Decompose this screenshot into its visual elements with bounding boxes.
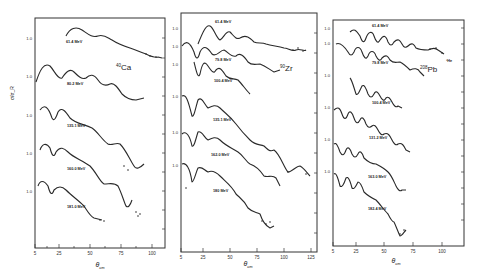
panel-frame bbox=[35, 18, 165, 248]
energy-label: 61.4 MeV bbox=[215, 20, 232, 24]
energy-label: 181.0 MeV bbox=[67, 205, 86, 209]
y-ref-label: 1.0 bbox=[26, 151, 32, 156]
energy-label: 61.4 MeV bbox=[372, 24, 389, 28]
energy-label: 160.0 MeV bbox=[67, 167, 86, 171]
x-tick-label: 100 bbox=[148, 251, 156, 256]
energy-label: 180 MeV bbox=[213, 189, 229, 193]
panel-pb208: 5 25 50 75 100 θcm 1.0 1.0 1.0 1.0 1.0 1… bbox=[324, 20, 464, 266]
x-tick-label: 5 bbox=[34, 251, 37, 256]
x-axis-label: θcm bbox=[243, 260, 253, 269]
y-ref-label: 1.0 bbox=[26, 36, 32, 41]
curve-61-4-mev bbox=[198, 26, 306, 51]
x-tick-label: 5 bbox=[180, 255, 183, 260]
curve-181-0-mev bbox=[38, 182, 102, 221]
curve-162-0-mev bbox=[182, 132, 280, 186]
figure-canvas: σ/σ_R 5 25 50 75 100 θcm 1.0 1.0 1.0 1.0… bbox=[0, 0, 488, 280]
curve-160-0-mev bbox=[40, 144, 132, 206]
x-tick-label: 25 bbox=[353, 249, 359, 254]
curve-131-2-mev bbox=[334, 108, 410, 152]
y-ref-label: 1.0 bbox=[324, 169, 330, 174]
curve-100-4-mev bbox=[194, 62, 250, 94]
energy-label: 80.2 MeV bbox=[67, 82, 84, 86]
energy-label: 61.4 MeV bbox=[66, 40, 83, 44]
y-ref-label: 1.0 bbox=[324, 137, 330, 142]
y-ref-label: 1.0 bbox=[324, 41, 330, 46]
y-ref-label: 1.0 bbox=[26, 189, 32, 194]
y-ref-label: 1.0 bbox=[172, 44, 178, 49]
curve-182-4-mev bbox=[334, 174, 406, 236]
x-tick-label: 25 bbox=[56, 251, 62, 256]
x-tick-label: 125 bbox=[307, 255, 315, 260]
x-tick-label: 50 bbox=[87, 251, 93, 256]
y-ref-label: 1.0 bbox=[172, 94, 178, 99]
x-tick-label: 75 bbox=[254, 255, 260, 260]
x-tick-label: 100 bbox=[438, 249, 446, 254]
x-axis-ticks: 5 25 50 75 100 bbox=[332, 242, 447, 254]
y-ref-label: 1.0 bbox=[26, 74, 32, 79]
x-axis-ticks: 5 25 50 75 100 125 bbox=[180, 248, 316, 260]
energy-label: 100.4 MeV bbox=[372, 101, 391, 105]
curve-79-8-mev bbox=[336, 43, 424, 76]
energy-label: 162.0 MeV bbox=[211, 153, 230, 157]
energy-label: 135.1 MeV bbox=[213, 118, 232, 122]
y-ref-label: 1.0 bbox=[172, 62, 178, 67]
nucleus-label: 40Ca bbox=[116, 63, 132, 72]
energy-label: 131.2 MeV bbox=[369, 136, 388, 140]
curve-180-mev bbox=[182, 164, 274, 228]
y-ref-label: 1.0 bbox=[172, 26, 178, 31]
curve-163-0-mev bbox=[334, 143, 406, 190]
energy-label: 100.4 MeV bbox=[214, 79, 233, 83]
energy-label: 135.1 MeV bbox=[67, 124, 86, 128]
curve-135-1-mev bbox=[40, 107, 144, 168]
x-axis-label: θcm bbox=[95, 261, 105, 270]
y-ref-label: 1.0 bbox=[26, 113, 32, 118]
y-axis-label: σ/σ_R bbox=[9, 86, 15, 100]
x-tick-label: 50 bbox=[227, 255, 233, 260]
x-tick-label: 50 bbox=[381, 249, 387, 254]
energy-label: 79.8 MeV bbox=[215, 58, 232, 62]
nucleus-label: 208Pb bbox=[420, 65, 438, 74]
x-tick-label: 75 bbox=[410, 249, 416, 254]
y-ref-label: 1.0 bbox=[324, 73, 330, 78]
x-axis-ticks: 5 25 50 75 100 bbox=[34, 244, 157, 256]
y-ref-label: 1.0 bbox=[324, 105, 330, 110]
x-tick-label: 25 bbox=[200, 255, 206, 260]
curve-61-4-mev bbox=[350, 30, 444, 54]
y-ref-label: 1.0 bbox=[324, 26, 330, 31]
curve-135-1-mev bbox=[182, 96, 310, 176]
x-tick-label: 75 bbox=[118, 251, 124, 256]
panel-ca40: σ/σ_R 5 25 50 75 100 θcm 1.0 1.0 1.0 1.0… bbox=[9, 18, 165, 270]
x-axis-label: θcm bbox=[391, 257, 401, 266]
energy-label: 79.8 MeV bbox=[372, 61, 389, 65]
data-points bbox=[99, 53, 157, 222]
y-ref-label: 1.0 bbox=[172, 163, 178, 168]
panel-zr90: 5 25 50 75 100 125 θcm 1.0 1.0 1.0 1.0 1… bbox=[172, 13, 317, 269]
nucleus-label: 90Zr bbox=[280, 64, 293, 73]
projectile-label: ³He bbox=[446, 59, 452, 63]
y-ref-label: 1.0 bbox=[172, 130, 178, 135]
data-points bbox=[399, 47, 443, 235]
energy-label: 182.4 MeV bbox=[368, 207, 387, 211]
energy-label: 163.0 MeV bbox=[368, 175, 387, 179]
x-tick-label: 100 bbox=[280, 255, 288, 260]
x-tick-label: 5 bbox=[332, 249, 335, 254]
